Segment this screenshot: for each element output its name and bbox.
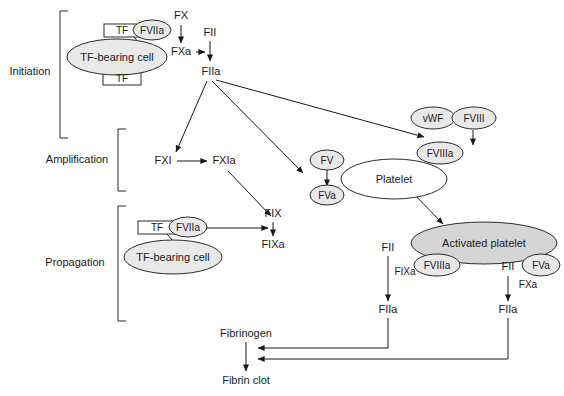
- stage-bracket-initiation: [60, 11, 68, 138]
- label-fviiia-propagation: FVIIIa: [424, 260, 451, 271]
- label-fviia-propagation: FVIIa: [176, 222, 200, 233]
- label-fiia-top: FIIa: [202, 65, 222, 77]
- label-fviia-initiation: FVIIa: [140, 25, 164, 36]
- label-activated-platelet: Activated platelet: [442, 237, 526, 249]
- edge-fiia-to-fxi: [176, 81, 207, 152]
- label-fii-right: FII: [502, 260, 515, 272]
- label-fibrin-clot: Fibrin clot: [222, 374, 270, 386]
- label-fiia-left: FIIa: [379, 303, 399, 315]
- label-fva-amplification: FVa: [318, 190, 336, 201]
- edge-fiia-left-to-fibrinogen: [258, 318, 388, 348]
- label-fixa: FIXa: [261, 238, 285, 250]
- edge-fiia-right-to-fibrinogen: [258, 318, 508, 359]
- label-vwf: vWF: [423, 113, 444, 124]
- stage-label-initiation: Initiation: [10, 65, 51, 77]
- label-fxi: FXI: [154, 154, 171, 166]
- label-fxia: FXIa: [212, 154, 236, 166]
- label-fviii: FVIII: [463, 113, 484, 124]
- label-fixa-cofactor: FIXa: [394, 266, 416, 277]
- label-platelet: Platelet: [376, 173, 413, 185]
- label-fiia-right: FIIa: [499, 303, 519, 315]
- diagram-svg: Initiation Amplification Propagation TF …: [0, 0, 564, 396]
- label-tf-bottom: TF: [116, 73, 128, 84]
- label-fii-top: FII: [204, 26, 217, 38]
- label-tf-bearing-cell-initiation: TF-bearing cell: [80, 51, 153, 63]
- label-fv: FV: [321, 155, 334, 166]
- label-tf-top: TF: [116, 25, 128, 36]
- label-fxa-cofactor: FXa: [519, 279, 538, 290]
- label-tf-bearing-cell-propagation: TF-bearing cell: [136, 251, 209, 263]
- edge-fiia-to-fviiia: [216, 80, 424, 137]
- label-fviiia-amplification: FVIIIa: [427, 148, 454, 159]
- stage-label-propagation: Propagation: [45, 256, 104, 268]
- label-fx: FX: [174, 9, 189, 21]
- label-fibrinogen: Fibrinogen: [220, 327, 272, 339]
- label-fix: FIX: [264, 207, 282, 219]
- stage-bracket-amplification: [118, 129, 126, 191]
- coagulation-diagram-canvas: Initiation Amplification Propagation TF …: [0, 0, 564, 396]
- label-fxa: FXa: [171, 45, 192, 57]
- stage-bracket-propagation: [118, 206, 126, 321]
- label-fva-propagation: FVa: [532, 260, 550, 271]
- label-tf-propagation: TF: [151, 222, 163, 233]
- label-fii-left: FII: [382, 241, 395, 253]
- stage-label-amplification: Amplification: [46, 153, 108, 165]
